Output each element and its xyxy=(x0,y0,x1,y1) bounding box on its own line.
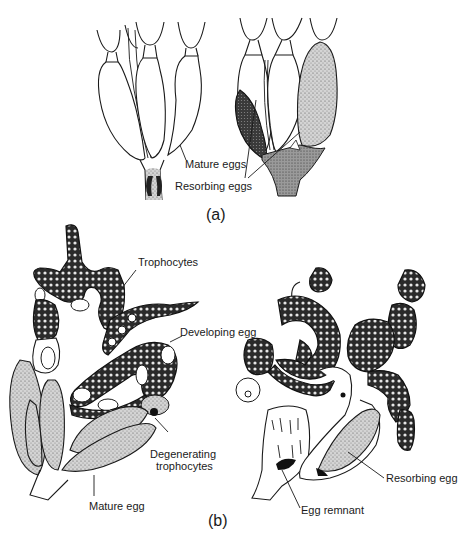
panel-a: Mature eggs Resorbing eggs (a) xyxy=(97,18,337,223)
caption-b: (b) xyxy=(208,512,228,529)
label-mature-egg: Mature egg xyxy=(89,500,145,512)
label-mature-eggs: Mature eggs xyxy=(185,158,247,170)
label-resorbing-eggs: Resorbing eggs xyxy=(175,180,253,192)
label-trophocytes: Trophocytes xyxy=(138,256,199,268)
label-degenerating-trophocytes-2: trophocytes xyxy=(156,460,213,472)
panel-a-right-ovarioles xyxy=(235,18,337,196)
panel-b: Trophocytes Developing egg Degenerating … xyxy=(10,225,458,529)
label-resorbing-egg: Resorbing egg xyxy=(386,472,458,484)
leader-degenerating-trophocytes xyxy=(155,418,168,432)
leader-trophocytes xyxy=(122,270,136,288)
label-egg-remnant: Egg remnant xyxy=(301,504,364,516)
panel-b-right-ovariole xyxy=(236,268,425,500)
panel-a-left-ovarioles xyxy=(97,22,205,200)
label-developing-egg: Developing egg xyxy=(180,326,256,338)
caption-a: (a) xyxy=(206,206,226,223)
label-degenerating-trophocytes-1: Degenerating xyxy=(150,448,216,460)
ovariole-diagram: Mature eggs Resorbing eggs (a) xyxy=(0,0,466,541)
